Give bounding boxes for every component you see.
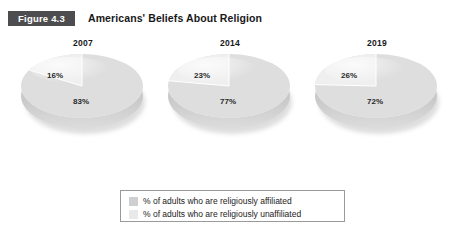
page-title: Americans' Beliefs About Religion bbox=[88, 11, 262, 26]
pie-label-unaffiliated: 26% bbox=[341, 71, 357, 80]
legend-swatch-icon-unaffiliated bbox=[129, 210, 138, 219]
pie-slice-unaffiliated bbox=[315, 54, 376, 86]
pie-top-face bbox=[168, 54, 290, 118]
legend-item-affiliated: % of adults who are religiously affiliat… bbox=[129, 195, 336, 207]
pie-panel-2007: 2007 16% 83% bbox=[8, 34, 158, 174]
legend-label: % of adults who are religiously unaffili… bbox=[143, 209, 301, 219]
pie-label-affiliated: 83% bbox=[73, 97, 89, 106]
figure-header: Figure 4.3 Americans' Beliefs About Reli… bbox=[0, 0, 460, 34]
pie-slices-svg bbox=[168, 54, 290, 118]
pie-panel-2019: 2019 26% 72% bbox=[302, 34, 452, 174]
pie-slices-svg bbox=[315, 54, 437, 118]
legend-item-unaffiliated: % of adults who are religiously unaffili… bbox=[129, 208, 336, 220]
pie-label-unaffiliated: 23% bbox=[194, 71, 210, 80]
pie-panel-2014: 2014 23% 77% bbox=[155, 34, 305, 174]
chart-legend: % of adults who are religiously affiliat… bbox=[120, 190, 345, 222]
pie-slices-svg bbox=[21, 54, 143, 118]
pie-label-affiliated: 72% bbox=[367, 97, 383, 106]
pie-label-unaffiliated: 16% bbox=[47, 71, 63, 80]
legend-label: % of adults who are religiously affiliat… bbox=[143, 196, 292, 206]
pie-label-affiliated: 77% bbox=[220, 97, 236, 106]
pie-disc: 23% 77% bbox=[168, 54, 292, 132]
pie-panel-year-label: 2014 bbox=[155, 38, 305, 48]
pie-disc: 26% 72% bbox=[315, 54, 439, 132]
pie-disc: 16% 83% bbox=[21, 54, 145, 132]
pie-chart-panels: 2007 16% 83% 2014 bbox=[0, 34, 460, 174]
pie-panel-year-label: 2007 bbox=[8, 38, 158, 48]
pie-top-face bbox=[21, 54, 143, 118]
pie-top-face bbox=[315, 54, 437, 118]
pie-panel-year-label: 2019 bbox=[302, 38, 452, 48]
legend-swatch-icon-affiliated bbox=[129, 197, 138, 206]
figure-number-badge: Figure 4.3 bbox=[8, 11, 75, 26]
